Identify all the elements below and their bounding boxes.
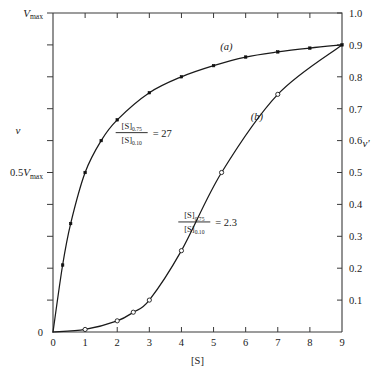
plot-frame (53, 13, 342, 332)
annotation-numerator-text: [S] (184, 210, 195, 220)
x-tick-label: 2 (115, 337, 120, 348)
y-right-tick-label: 0.2 (349, 263, 362, 274)
data-point-marker (309, 47, 312, 50)
annotation-numerator: [S]0.75 (184, 210, 205, 221)
annotation-denominator: [S]0.10 (122, 135, 143, 146)
data-point-marker (219, 170, 223, 174)
data-point-marker (277, 51, 280, 54)
data-point-marker (84, 171, 87, 174)
data-point-marker (69, 222, 72, 225)
axis-frame (53, 13, 342, 332)
kinetics-figure: 0123456789 0.10.20.30.40.50.60.70.80.91.… (0, 0, 374, 368)
y-right-tick-labels: 0.10.20.30.40.50.60.70.80.91.0 (349, 8, 363, 306)
data-point-marker (276, 92, 280, 96)
y-left-label-prefix: 0.5 (10, 167, 23, 178)
data-point-marker (116, 119, 119, 122)
x-tick-label: 6 (243, 337, 248, 348)
data-point-marker (179, 249, 183, 253)
y-left-label-subscript: max (30, 172, 43, 181)
annotation-numerator-subscript: 0.75 (195, 216, 205, 222)
y-left-axis-ticks (47, 13, 53, 300)
x-axis-ticks (85, 327, 310, 332)
curve-b (53, 45, 342, 332)
annotation-denominator-text: [S] (122, 135, 133, 145)
data-point-marker (244, 56, 247, 59)
y-left-tick-label: Vmax (23, 7, 43, 22)
y-right-tick-label: 0.6 (349, 135, 362, 146)
annotation-denominator-subscript: 0.10 (195, 229, 205, 235)
plot-canvas: 0123456789 0.10.20.30.40.50.60.70.80.91.… (0, 0, 374, 368)
y-right-tick-label: 0.5 (349, 167, 362, 178)
x-tick-label: 9 (339, 337, 344, 348)
top-axis-ticks (85, 13, 310, 18)
y-left-tick-label: 0 (38, 327, 43, 338)
x-tick-label: 0 (50, 337, 55, 348)
y-left-tick-label: 0.5Vmax (10, 166, 43, 181)
x-tick-label: 5 (211, 337, 216, 348)
y-left-label-prefix: 0 (38, 327, 43, 338)
y-left-label-subscript: max (30, 12, 43, 21)
y-right-tick-label: 1.0 (349, 8, 362, 19)
annotation-denominator-subscript: 0.10 (132, 140, 142, 146)
annotation-ratio-a: [S]0.75[S]0.10= 27 (116, 121, 172, 146)
annotation-numerator: [S]0.75 (122, 121, 143, 132)
curve-a (53, 45, 342, 332)
y-axis-title: v (16, 124, 21, 136)
x-tick-label: 8 (307, 337, 312, 348)
annotation-ratio-b: [S]0.75[S]0.10= 2.3 (178, 210, 237, 235)
data-point-marker (131, 310, 135, 314)
x-tick-label: 4 (179, 337, 185, 348)
data-point-marker (341, 44, 344, 47)
y-right-tick-label: 0.7 (349, 104, 362, 115)
y2-axis-title: v' (362, 137, 370, 149)
data-point-marker (61, 264, 64, 267)
curve-b-label: (b) (251, 111, 264, 123)
data-point-marker (100, 139, 103, 142)
y-right-tick-label: 0.3 (349, 231, 362, 242)
data-point-marker (147, 298, 151, 302)
data-point-marker (115, 319, 119, 323)
y-right-tick-label: 0.8 (349, 72, 362, 83)
y-right-tick-label: 0.1 (349, 295, 362, 306)
y-right-tick-label: 0.9 (349, 40, 362, 51)
y-left-tick-labels: Vmax0.5Vmax0 (10, 7, 43, 338)
data-point-marker (83, 327, 87, 331)
x-tick-label: 3 (147, 337, 152, 348)
data-point-marker (212, 64, 215, 67)
annotation-numerator-text: [S] (122, 121, 133, 131)
data-point-marker (148, 92, 151, 95)
y-right-tick-label: 0.4 (349, 199, 363, 210)
x-axis-title: [S] (191, 355, 204, 366)
data-point-marker (180, 76, 183, 79)
curve-a-label: (a) (220, 41, 233, 53)
annotation-numerator-subscript: 0.75 (132, 126, 142, 132)
annotation-equals: = 2.3 (215, 217, 237, 228)
annotation-denominator-text: [S] (184, 224, 195, 234)
y-right-axis-ticks (337, 13, 342, 300)
x-tick-label: 7 (275, 337, 280, 348)
x-axis-tick-labels: 0123456789 (50, 337, 344, 348)
x-tick-label: 1 (82, 337, 87, 348)
annotation-equals: = 27 (153, 128, 172, 139)
annotation-denominator: [S]0.10 (184, 224, 205, 235)
series-group (53, 44, 343, 332)
